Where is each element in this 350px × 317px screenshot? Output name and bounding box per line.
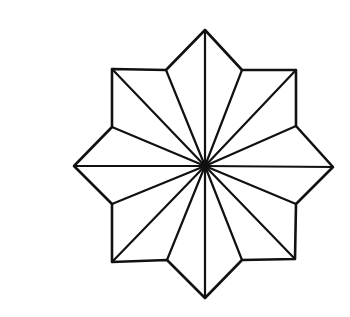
spoke-line-14 <box>112 69 205 166</box>
spoke-line-2 <box>205 70 296 166</box>
spoke-line-10 <box>112 166 205 262</box>
eight-pointed-star-figure <box>0 0 350 317</box>
spoke-line-4 <box>205 166 333 167</box>
diagram-canvas <box>0 0 350 317</box>
star-center-point <box>203 164 208 169</box>
spoke-line-6 <box>205 166 295 259</box>
